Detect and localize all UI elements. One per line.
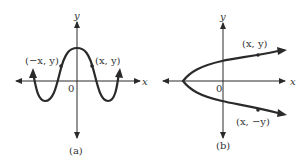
symmetry-diagram: x y 0 (−x, y) (x, y) (a) x y 0 (x, y) (x… bbox=[0, 0, 306, 163]
point-label-x-y: (x, y) bbox=[242, 38, 268, 49]
arrowhead-right-icon bbox=[115, 68, 123, 78]
origin-label: 0 bbox=[216, 83, 222, 94]
point-neg-x-y bbox=[59, 64, 63, 68]
caption-b: (b) bbox=[216, 140, 230, 151]
panel-a: x y 0 (−x, y) (x, y) (a) bbox=[16, 10, 148, 156]
y-axis-label: y bbox=[73, 10, 80, 21]
origin-label: 0 bbox=[68, 83, 74, 94]
point-x-neg-y bbox=[256, 108, 260, 112]
point-x-y bbox=[90, 64, 94, 68]
y-axis-label: y bbox=[219, 11, 226, 22]
caption-a: (a) bbox=[69, 145, 83, 156]
arrowhead-lower-icon bbox=[277, 109, 287, 117]
panel-b: x y 0 (x, y) (x, −y) (b) bbox=[163, 11, 296, 151]
x-axis-label: x bbox=[290, 76, 296, 87]
point-x-y bbox=[256, 53, 260, 57]
point-label-x-neg-y: (x, −y) bbox=[236, 116, 270, 127]
arrowhead-upper-icon bbox=[277, 47, 287, 55]
point-label-x-y: (x, y) bbox=[95, 55, 121, 66]
sideways-parabola-curve bbox=[183, 51, 278, 113]
arrowhead-left-icon bbox=[29, 68, 37, 78]
x-axis-label: x bbox=[142, 76, 148, 87]
point-label-neg-x-y: (−x, y) bbox=[25, 55, 59, 66]
